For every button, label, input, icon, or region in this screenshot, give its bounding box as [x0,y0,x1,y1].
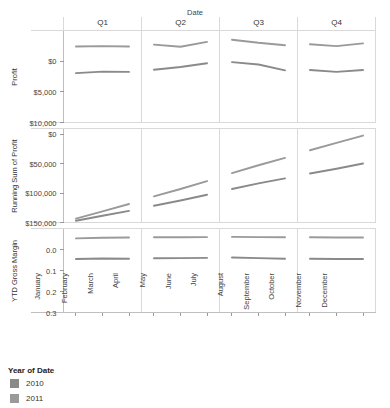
legend-swatch-2010[interactable] [10,379,19,388]
y-tick-label: 0.2 [0,288,57,297]
x-tick-label-august: August [216,273,225,319]
column-field-label: Date [0,8,390,17]
column-header-q2: Q2 [142,18,220,27]
series-line-2010-panel-1 [76,72,129,74]
column-header-q3: Q3 [220,18,298,27]
y-tick-label: 0.0 [0,246,57,255]
y-tick-label: 0.3 [0,309,57,318]
x-tick-label-february: February [60,273,69,319]
series-line-2010-panel-3 [232,178,285,189]
series-line-2010-panel-2 [154,195,207,206]
series-line-2011-panel-2 [154,42,207,47]
series-line-2011-panel-4 [310,136,363,151]
x-tick-label-july: July [189,273,198,319]
x-tick-label-january: January [33,273,42,319]
series-line-2010-panel-4 [310,70,363,72]
x-tick-label-september: September [242,273,251,319]
series-line-2011-panel-3 [232,40,285,46]
x-tick-label-november: November [294,273,303,319]
y-tick-label: $10,000 [0,119,57,128]
y-tick-label: $0 [0,57,57,66]
column-header-q1: Q1 [64,18,142,27]
legend-label-2011[interactable]: 2011 [26,394,43,403]
series-line-2011-panel-4 [310,43,363,46]
x-tick-label-june: June [164,273,173,319]
series-line-2011-panel-1 [76,238,129,239]
series-line-2010-panel-2 [154,63,207,69]
axis-title-2: YTD Gross Margin [10,229,19,313]
legend-label-2010[interactable]: 2010 [26,379,44,388]
series-line-2010-panel-3 [232,62,285,70]
series-line-2011-panel-3 [232,158,285,173]
legend-title: Year of Date [8,366,54,375]
axis-title-0: Profit [10,31,19,123]
legend-swatch-2011[interactable] [10,394,19,403]
column-header-q4: Q4 [298,18,376,27]
y-tick-label: $100,000 [0,189,57,198]
axis-title-1: Running Sum of Profit [10,129,19,223]
y-tick-label: 0.1 [0,267,57,276]
x-tick-label-may: May [138,273,147,319]
x-tick-label-march: March [86,273,95,319]
y-tick-label: $0 [0,130,57,139]
x-tick-label-october: October [267,273,276,319]
visualization-canvas: DateQ1Q2Q3Q4$10,000$5,000$0Profit$150,00… [0,0,390,408]
y-tick-label: $50,000 [0,160,57,169]
y-tick-label: $5,000 [0,88,57,97]
series-line-2010-panel-4 [310,163,363,173]
series-line-2011-panel-2 [154,181,207,196]
x-tick-label-april: April [111,273,120,319]
y-tick-label: $150,000 [0,219,57,228]
series-line-2010-panel-3 [232,257,285,258]
chart-svg [0,0,390,408]
x-tick-label-december: December [320,273,329,319]
